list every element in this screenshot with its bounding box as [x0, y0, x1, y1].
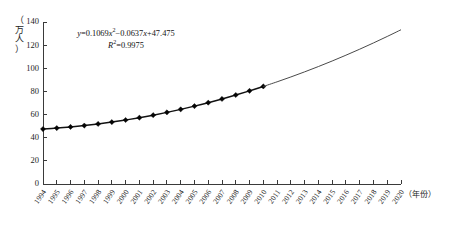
y-axis-tick-label: 20: [31, 155, 40, 165]
x-axis-tick-label: 2000: [115, 188, 131, 206]
data-point-marker: [247, 88, 252, 93]
x-axis-tick-label: 2005: [184, 188, 200, 206]
y-axis-tick-label: 0: [35, 178, 39, 188]
x-axis-tick-label: 2001: [128, 188, 144, 206]
x-axis-tick-label: 1996: [60, 188, 76, 206]
x-axis-tick-label: 2018: [363, 188, 379, 206]
x-axis-tick-label: 1999: [101, 188, 117, 206]
data-point-marker: [82, 123, 87, 128]
data-point-marker: [233, 92, 238, 97]
x-axis-tick-label: 1997: [73, 188, 89, 206]
data-point-marker: [137, 115, 142, 120]
x-axis-tick-label: 2004: [170, 188, 186, 206]
data-point-marker: [123, 117, 128, 122]
trend-extrapolation-line: [263, 30, 401, 87]
x-axis-tick-label: 2006: [197, 188, 213, 206]
y-axis-tick-label: 100: [26, 63, 39, 73]
x-axis-tick-label: 1998: [87, 188, 103, 206]
x-axis-tick-label: 2019: [376, 188, 392, 206]
x-axis-tick-label: 2002: [142, 188, 158, 206]
x-axis-tick-label: 1994: [32, 188, 48, 206]
x-axis-tick-label: 1995: [46, 188, 62, 206]
data-point-marker: [192, 104, 197, 109]
chart-plot-area: 0204060801001201401994199519961997199819…: [0, 0, 450, 226]
data-point-marker: [54, 126, 59, 131]
data-point-marker: [109, 119, 114, 124]
data-point-marker: [164, 110, 169, 115]
data-point-marker: [95, 121, 100, 126]
data-point-marker: [261, 84, 266, 89]
chart-container: （ 万 人 ） y=0.1069x2−0.0637x+47.475 R2=0.9…: [0, 0, 450, 226]
x-axis-tick-label: 2013: [294, 188, 310, 206]
data-series-line: [43, 86, 263, 129]
x-axis-tick-label: 2015: [321, 188, 337, 206]
data-point-marker: [206, 100, 211, 105]
x-axis-tick-label: 2020: [390, 188, 406, 206]
data-point-marker: [40, 126, 45, 131]
y-axis-tick-label: 80: [31, 86, 40, 96]
x-axis-tick-label: 2010: [252, 188, 268, 206]
y-axis-tick-label: 120: [26, 40, 39, 50]
y-axis-tick-label: 140: [26, 16, 39, 26]
data-point-marker: [151, 113, 156, 118]
x-axis-tick-label: 2016: [335, 188, 351, 206]
x-axis-tick-label: 2009: [239, 188, 255, 206]
y-axis-tick-label: 60: [31, 109, 40, 119]
x-axis-tick-label: 2014: [307, 188, 323, 206]
data-point-marker: [68, 124, 73, 129]
x-axis-tick-label: 2011: [266, 188, 282, 206]
x-axis-tick-label: 2007: [211, 188, 227, 206]
x-axis-tick-label: 2008: [225, 188, 241, 206]
data-point-marker: [219, 96, 224, 101]
x-axis-tick-label: 2012: [280, 188, 296, 206]
data-point-marker: [178, 107, 183, 112]
x-axis-tick-label: 2003: [156, 188, 172, 206]
y-axis-tick-label: 40: [31, 132, 40, 142]
x-axis-tick-label: 2017: [349, 188, 365, 206]
